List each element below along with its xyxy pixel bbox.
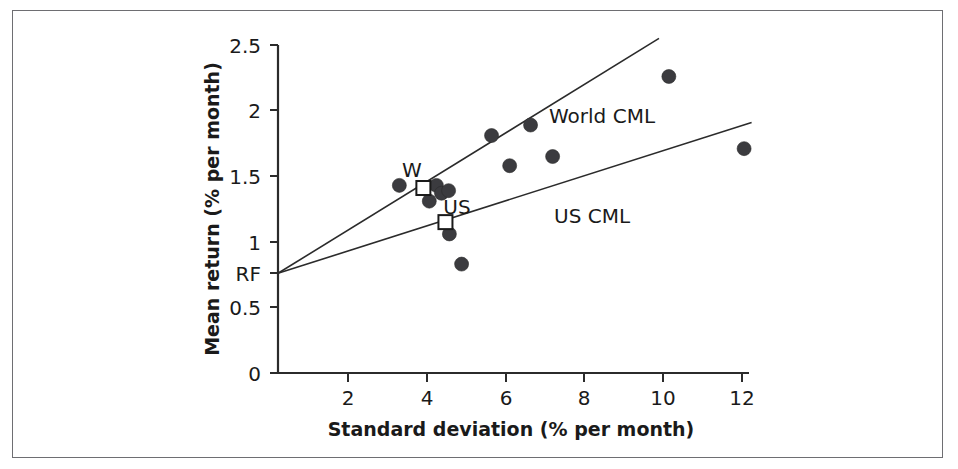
cml-lines-group bbox=[278, 38, 752, 273]
world-cml-label: World CML bbox=[549, 104, 656, 128]
data-point bbox=[455, 257, 469, 271]
us-cml-label: US CML bbox=[554, 204, 631, 228]
scatter-plot: 2.5 2 1.5 1 0.5 0 RF 2 4 6 8 10 12 Stand… bbox=[13, 11, 941, 456]
world-portfolio-label: W bbox=[402, 158, 422, 182]
us-portfolio-label: US bbox=[443, 195, 470, 219]
figure-frame: 2.5 2 1.5 1 0.5 0 RF 2 4 6 8 10 12 Stand… bbox=[12, 10, 943, 458]
world-cml-line bbox=[278, 38, 659, 273]
x-tick-label-2: 2 bbox=[342, 386, 355, 410]
y-tick-label-2.5: 2.5 bbox=[229, 34, 261, 58]
data-point bbox=[546, 150, 560, 164]
data-point bbox=[422, 194, 436, 208]
y-tick-label-0.5: 0.5 bbox=[229, 296, 261, 320]
y-axis-title: Mean return (% per month) bbox=[201, 62, 223, 356]
chart-page: 2.5 2 1.5 1 0.5 0 RF 2 4 6 8 10 12 Stand… bbox=[0, 0, 958, 469]
x-tick-label-12: 12 bbox=[729, 386, 754, 410]
data-point bbox=[503, 159, 517, 173]
x-tick-label-10: 10 bbox=[650, 386, 675, 410]
index-marker-w bbox=[416, 181, 430, 195]
data-point bbox=[662, 69, 676, 83]
y-tick-label-0: 0 bbox=[248, 362, 261, 386]
x-tick-label-8: 8 bbox=[578, 386, 591, 410]
y-tick-label-2: 2 bbox=[248, 99, 261, 123]
x-tick-label-6: 6 bbox=[500, 386, 513, 410]
data-point bbox=[524, 118, 538, 132]
data-point bbox=[485, 129, 499, 143]
rf-label: RF bbox=[236, 262, 261, 286]
data-point bbox=[737, 142, 751, 156]
us-cml-line bbox=[278, 122, 752, 273]
x-tick-label-4: 4 bbox=[421, 386, 434, 410]
y-tick-label-1.5: 1.5 bbox=[229, 165, 261, 189]
x-axis-title: Standard deviation (% per month) bbox=[328, 418, 695, 440]
y-tick-label-1: 1 bbox=[248, 231, 261, 255]
